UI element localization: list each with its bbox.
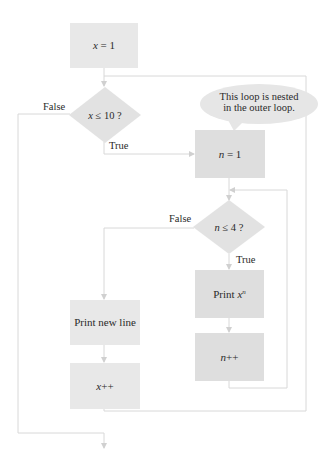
outer-condition-diamond: x ≤ 10 ? (69, 87, 141, 143)
nested-loop-callout: This loop is nested in the outer loop. (198, 84, 320, 134)
increment-x-label: x++ (96, 380, 113, 392)
init-n-label: n = 1 (219, 148, 242, 160)
inner-false-label: False (169, 213, 191, 224)
connector-lines (0, 0, 320, 456)
print-newline-box: Print new line (70, 300, 140, 345)
callout-text: This loop is nested in the outer loop. (198, 91, 320, 113)
print-power-label: Print xn (213, 288, 246, 300)
increment-n-box: n++ (195, 333, 264, 381)
init-x-label: x = 1 (93, 39, 115, 51)
print-power-box: Print xn (195, 270, 264, 318)
outer-true-label: True (109, 140, 128, 151)
connector-inner-false (104, 228, 194, 299)
inner-condition-label: n ≤ 4 ? (215, 222, 244, 233)
outer-false-label: False (43, 101, 65, 112)
increment-n-label: n++ (221, 351, 239, 363)
inner-condition-diamond: n ≤ 4 ? (193, 200, 265, 254)
flowchart-canvas: x = 1 x ≤ 10 ? False True This loop is n… (0, 0, 320, 456)
inner-true-label: True (236, 254, 255, 265)
print-newline-label: Print new line (74, 316, 136, 328)
increment-x-box: x++ (70, 363, 140, 409)
init-n-box: n = 1 (195, 130, 265, 178)
outer-condition-label: x ≤ 10 ? (88, 110, 121, 121)
init-x-box: x = 1 (70, 23, 138, 68)
